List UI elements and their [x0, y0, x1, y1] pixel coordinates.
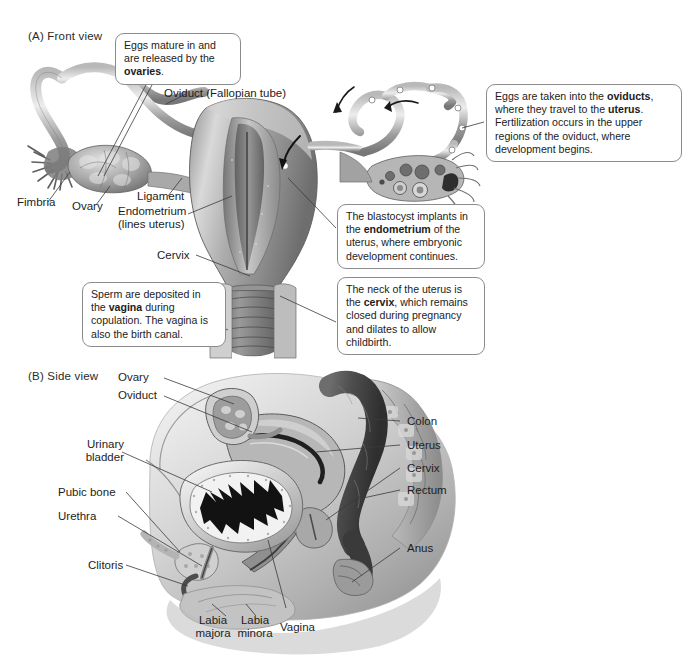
label-pubic-bone: Pubic bone — [58, 486, 116, 499]
callout-cervix-bold1: cervix — [364, 296, 395, 308]
panel-b-title: (B) Side view — [28, 370, 98, 382]
label-uterus-b: Uterus — [407, 439, 441, 452]
label-cervix-a: Cervix — [157, 249, 190, 262]
callout-endometrium-bold1: endometrium — [364, 223, 431, 235]
callout-vagina-bold1: vagina — [109, 301, 143, 313]
label-ovary-b: Ovary — [118, 371, 149, 384]
label-oviduct-fallopian-tube: Oviduct (Fallopian tube) — [164, 87, 286, 100]
panel-a-title: (A) Front view — [28, 30, 102, 42]
callout-ovaries: Eggs mature in and are released by the o… — [115, 33, 241, 85]
callout-vagina: Sperm are deposited in the vagina during… — [82, 282, 226, 347]
label-labia-minora-line2: minora — [228, 627, 282, 640]
callout-cervix: The neck of the uterus is the cervix, wh… — [337, 277, 485, 355]
callout-endometrium: The blastocyst implants in the endometri… — [337, 204, 485, 269]
label-urethra: Urethra — [58, 510, 96, 523]
label-urinary-bladder-line1: Urinary — [58, 438, 124, 451]
label-endometrium-line2: (lines uterus) — [118, 218, 186, 231]
label-urinary-bladder: Urinary bladder — [58, 438, 124, 463]
callout-oviducts: Eggs are taken into the oviducts, where … — [486, 84, 682, 162]
callout-oviducts-seg1: Eggs are taken into the — [495, 90, 607, 102]
label-endometrium: Endometrium (lines uterus) — [118, 205, 186, 230]
label-labia-minora: Labia minora — [228, 614, 282, 639]
callout-oviducts-bold2: uterus — [608, 103, 640, 115]
label-cervix-b: Cervix — [407, 462, 440, 475]
label-labia-minora-line1: Labia — [228, 614, 282, 627]
label-clitoris: Clitoris — [88, 559, 123, 572]
label-endometrium-line1: Endometrium — [118, 205, 186, 218]
callout-ovaries-text: Eggs mature in and are released by the — [124, 39, 216, 64]
label-ligament: Ligament — [137, 190, 184, 203]
label-rectum: Rectum — [407, 484, 447, 497]
label-urinary-bladder-line2: bladder — [58, 451, 124, 464]
callout-oviducts-bold1: oviducts — [607, 90, 651, 102]
label-vagina-b: Vagina — [280, 621, 315, 634]
callout-ovaries-bold: ovaries — [124, 65, 161, 77]
label-anus: Anus — [407, 542, 433, 555]
label-ovary-a: Ovary — [72, 200, 103, 213]
label-oviduct-b: Oviduct — [118, 389, 157, 402]
callout-ovaries-suffix: . — [161, 65, 164, 77]
label-colon: Colon — [407, 415, 437, 428]
label-fimbria: Fimbria — [17, 196, 55, 209]
